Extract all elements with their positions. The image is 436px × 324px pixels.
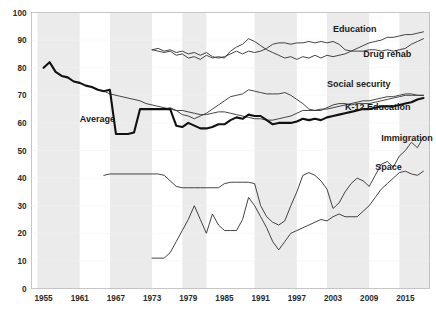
x-axis-ticks: 1955196119671973197919851991199720032009… bbox=[34, 294, 414, 303]
y-tick-label: 100 bbox=[13, 9, 27, 18]
x-tick-label: 1985 bbox=[215, 294, 234, 303]
x-tick-label: 1955 bbox=[34, 294, 53, 303]
series-label-drug-rehab: Drug rehab bbox=[363, 49, 412, 59]
series-label-space: Space bbox=[375, 162, 402, 172]
y-tick-label: 0 bbox=[22, 285, 27, 294]
x-tick-label: 1979 bbox=[179, 294, 198, 303]
series-label-social-security: Social security bbox=[327, 79, 391, 89]
series-label-average: Average bbox=[80, 114, 115, 124]
x-tick-label: 1991 bbox=[252, 294, 271, 303]
x-tick-label: 1973 bbox=[143, 294, 162, 303]
x-tick-label: 1967 bbox=[107, 294, 126, 303]
series-label-education: Education bbox=[333, 24, 377, 34]
y-tick-label: 20 bbox=[17, 229, 27, 238]
y-tick-label: 30 bbox=[17, 202, 27, 211]
x-tick-label: 2015 bbox=[396, 294, 415, 303]
x-tick-label: 2009 bbox=[360, 294, 379, 303]
y-tick-label: 80 bbox=[17, 64, 27, 73]
series-label-immigration: Immigration bbox=[381, 133, 433, 143]
y-tick-label: 50 bbox=[17, 147, 27, 156]
y-tick-label: 10 bbox=[17, 257, 27, 266]
y-tick-label: 60 bbox=[17, 119, 27, 128]
x-tick-label: 2003 bbox=[324, 294, 343, 303]
chart-container: 0102030405060708090100 19551961196719731… bbox=[0, 0, 436, 324]
x-tick-label: 1961 bbox=[71, 294, 90, 303]
line-chart: 0102030405060708090100 19551961196719731… bbox=[0, 0, 436, 324]
y-tick-label: 90 bbox=[17, 36, 27, 45]
y-tick-label: 70 bbox=[17, 91, 27, 100]
series-label-k-12-education: K-12 Education bbox=[345, 102, 411, 112]
y-tick-label: 40 bbox=[17, 174, 27, 183]
x-tick-label: 1997 bbox=[288, 294, 307, 303]
